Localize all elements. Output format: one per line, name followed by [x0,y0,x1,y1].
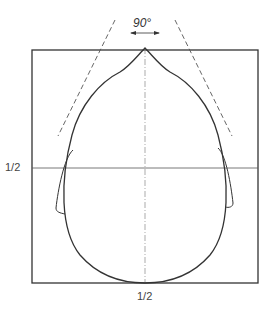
horizontal-half-label: 1/2 [5,161,20,173]
head-diagram [0,0,277,313]
arrowhead-left-icon [130,31,136,35]
arrowhead-right-icon [154,31,160,35]
angle-label: 90° [133,16,151,30]
tangent-line-left [58,20,115,136]
vertical-half-label: 1/2 [137,290,152,302]
tangent-line-right [175,20,232,136]
